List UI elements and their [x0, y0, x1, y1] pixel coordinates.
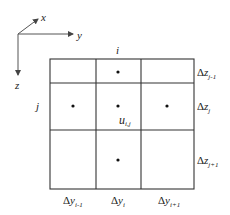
node-bottom	[116, 158, 119, 161]
finite-difference-grid-diagram: x y z i j ui,j Δzj-1 Δzj Δzj+1 Δyi-1 Δyi	[0, 0, 230, 215]
node-center	[116, 104, 119, 107]
x-axis-arrow	[18, 19, 38, 34]
dz-label-0: Δzj-1	[197, 66, 216, 81]
center-label-sub: i,j	[125, 120, 131, 128]
node-right	[165, 104, 168, 107]
node-left	[71, 104, 74, 107]
column-index-label: i	[116, 44, 119, 56]
coordinate-axes: x y z	[14, 11, 82, 91]
z-axis-label: z	[14, 79, 20, 91]
dy-label-1: Δyi	[111, 194, 125, 209]
row-index-label: j	[34, 100, 39, 112]
center-node-label: ui,j	[119, 113, 131, 128]
y-axis-label: y	[76, 29, 82, 41]
dy-label-2: Δyi+1	[158, 194, 180, 209]
dz-label-2: Δzj+1	[197, 154, 219, 169]
dz-label-1: Δzj	[197, 100, 210, 115]
dy-label-0: Δyi-1	[63, 194, 83, 209]
x-axis-label: x	[40, 11, 46, 23]
node-top	[116, 70, 119, 73]
